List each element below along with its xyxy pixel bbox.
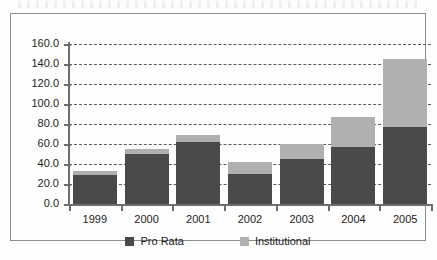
bar-segment-institutional[interactable] [383,59,427,127]
bar-segment-institutional[interactable] [331,117,375,147]
bar-segment-institutional[interactable] [176,135,220,142]
y-axis-tick-label: 80.0 [13,118,59,129]
legend-item[interactable]: Pro Rata [125,235,183,247]
gridline [69,124,431,125]
bar-stack[interactable] [73,171,117,204]
x-axis-tick-mark [172,204,174,211]
figure: Pro RataInstitutional 0.020.040.060.080.… [0,0,437,260]
y-axis-tick-mark [64,44,71,46]
x-axis-tick-mark [328,204,330,211]
chart-frame: Pro RataInstitutional 0.020.040.060.080.… [10,13,426,241]
legend-swatch-icon [125,237,134,246]
bar-segment-pro-rata[interactable] [125,154,169,204]
x-axis-tick-label-2005: 2005 [375,213,435,225]
chart-legend: Pro RataInstitutional [11,235,425,247]
y-axis-tick-mark [64,144,71,146]
bar-stack[interactable] [228,162,272,204]
y-axis-tick-label: 60.0 [13,138,59,149]
gridline [69,104,431,105]
legend-swatch-icon [240,237,249,246]
y-axis-tick-mark [64,84,71,86]
bar-segment-pro-rata[interactable] [280,159,324,204]
y-axis-tick-mark [64,124,71,126]
bar-segment-pro-rata[interactable] [331,147,375,204]
y-axis-tick-label: 40.0 [13,158,59,169]
y-axis-tick-label: 160.0 [13,38,59,49]
bar-segment-pro-rata[interactable] [73,175,117,204]
scan-artifact [18,1,418,8]
bar-segment-pro-rata[interactable] [383,127,427,204]
bar-stack[interactable] [176,135,220,204]
x-axis-tick-mark [276,204,278,211]
y-axis-tick-label: 140.0 [13,58,59,69]
y-axis-tick-mark [64,164,71,166]
gridline [69,144,431,145]
y-axis-tick-label: 0.0 [13,198,59,209]
bar-stack[interactable] [280,144,324,204]
bar-segment-pro-rata[interactable] [228,174,272,204]
x-axis-tick-mark [379,204,381,211]
bar-segment-pro-rata[interactable] [176,142,220,204]
legend-label: Pro Rata [140,235,183,247]
legend-label: Institutional [255,235,311,247]
x-axis-tick-mark [121,204,123,211]
x-axis-tick-mark [431,204,433,211]
x-axis-tick-mark [69,204,71,211]
y-axis-tick-label: 120.0 [13,78,59,89]
bar-segment-institutional[interactable] [280,144,324,159]
y-axis-tick-label: 20.0 [13,178,59,189]
y-axis-tick-mark [64,104,71,106]
y-axis-tick-mark [64,184,71,186]
gridline [69,84,431,85]
y-axis-tick-mark [64,64,71,66]
x-axis-tick-mark [224,204,226,211]
gridline [69,44,431,45]
y-axis-tick-label: 100.0 [13,98,59,109]
plot-area [69,44,431,204]
bar-stack[interactable] [331,117,375,204]
gridline [69,64,431,65]
bar-segment-institutional[interactable] [228,162,272,174]
bar-stack[interactable] [383,59,427,204]
legend-item[interactable]: Institutional [240,235,311,247]
bar-stack[interactable] [125,149,169,204]
